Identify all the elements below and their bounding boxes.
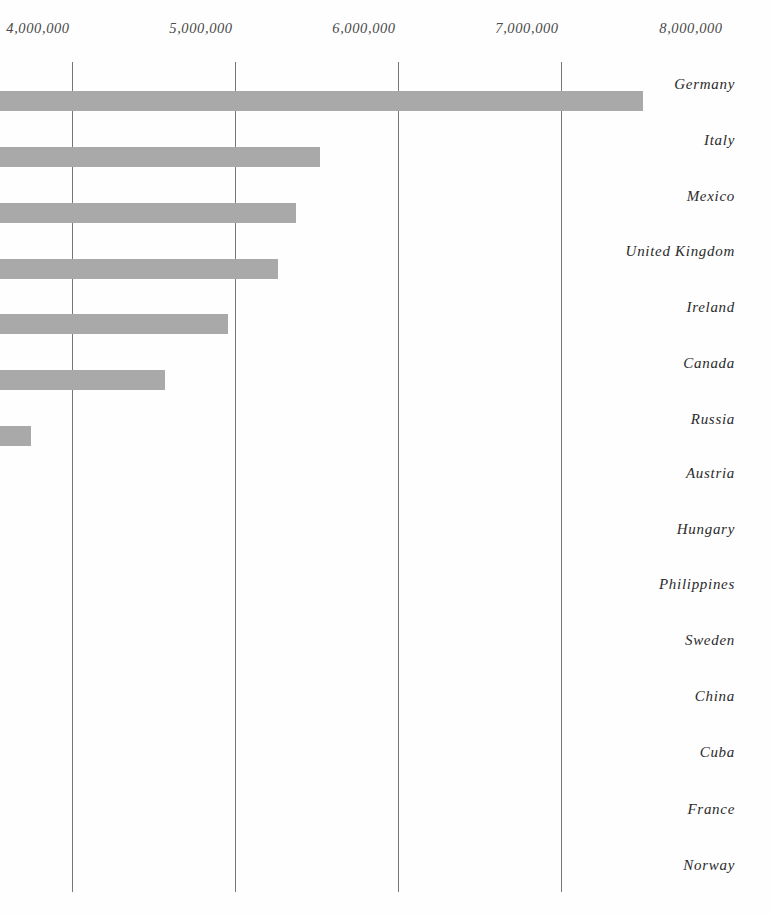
category-label-russia: Russia bbox=[691, 411, 735, 428]
gridline bbox=[72, 62, 73, 892]
category-label-italy: Italy bbox=[704, 132, 735, 149]
bar-ireland bbox=[0, 314, 228, 334]
horizontal-bar-chart: 4,000,0005,000,0006,000,0007,000,0008,00… bbox=[0, 0, 771, 916]
category-label-china: China bbox=[695, 688, 735, 705]
category-label-sweden: Sweden bbox=[685, 632, 735, 649]
category-label-france: France bbox=[687, 801, 735, 818]
bar-mexico bbox=[0, 203, 296, 223]
gridline bbox=[561, 62, 562, 892]
category-label-norway: Norway bbox=[683, 857, 735, 874]
category-label-germany: Germany bbox=[674, 76, 735, 93]
category-label-hungary: Hungary bbox=[677, 521, 735, 538]
bar-italy bbox=[0, 147, 320, 167]
category-label-united-kingdom: United Kingdom bbox=[626, 243, 735, 260]
bar-russia bbox=[0, 426, 31, 446]
category-label-philippines: Philippines bbox=[659, 576, 735, 593]
plot-area bbox=[0, 0, 771, 916]
bar-canada bbox=[0, 370, 165, 390]
category-label-cuba: Cuba bbox=[700, 744, 735, 761]
gridline bbox=[235, 62, 236, 892]
gridline bbox=[398, 62, 399, 892]
category-label-ireland: Ireland bbox=[686, 299, 735, 316]
bar-united-kingdom bbox=[0, 259, 278, 279]
category-label-mexico: Mexico bbox=[687, 188, 735, 205]
category-label-canada: Canada bbox=[683, 355, 735, 372]
category-label-austria: Austria bbox=[686, 465, 735, 482]
bar-germany bbox=[0, 91, 643, 111]
